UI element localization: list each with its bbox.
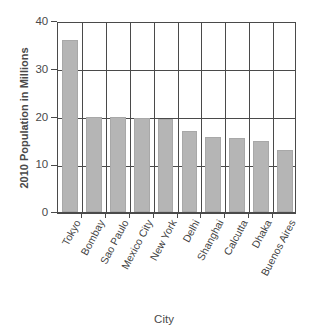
- y-axis-ticks: 010203040: [0, 0, 48, 336]
- bar-calcutta: [229, 138, 245, 212]
- x-tick-label-delhi: Delhi: [181, 218, 202, 244]
- x-tick-mark: [200, 213, 201, 218]
- bar-mexico-city: [134, 118, 150, 212]
- bar-sao-paulo: [110, 117, 126, 212]
- x-tick-mark: [105, 213, 106, 218]
- bar-chart-figure: 2010 Population in Millions 010203040 To…: [0, 0, 328, 336]
- bar-new-york: [158, 119, 174, 212]
- gridline-vertical: [130, 23, 131, 212]
- x-tick-label-tokyo: Tokyo: [60, 218, 83, 247]
- plot-area: [57, 22, 296, 213]
- gridline-vertical: [82, 23, 83, 212]
- y-tick-label: 0: [22, 207, 48, 219]
- gridline-vertical: [106, 23, 107, 212]
- x-tick-mark: [81, 213, 82, 218]
- bar-buenos-aires: [277, 150, 293, 212]
- gridline-vertical: [249, 23, 250, 212]
- bar-delhi: [182, 131, 198, 212]
- gridline-vertical: [273, 23, 274, 212]
- bar-bombay: [86, 117, 102, 213]
- x-tick-mark: [248, 213, 249, 218]
- y-tick-label: 40: [22, 16, 48, 28]
- x-tick-mark: [224, 213, 225, 218]
- x-tick-mark: [177, 213, 178, 218]
- bar-shanghai: [205, 137, 221, 212]
- x-tick-mark: [272, 213, 273, 218]
- gridline-vertical: [178, 23, 179, 212]
- bar-tokyo: [62, 40, 78, 212]
- x-tick-label-calcutta: Calcutta: [222, 218, 250, 257]
- x-tick-mark: [153, 213, 154, 218]
- y-tick-label: 20: [22, 112, 48, 124]
- gridline-vertical: [225, 23, 226, 212]
- y-tick-label: 10: [22, 159, 48, 171]
- gridline-horizontal: [58, 70, 295, 71]
- y-tick-label: 30: [22, 64, 48, 76]
- bar-dhaka: [253, 141, 269, 212]
- gridline-vertical: [154, 23, 155, 212]
- x-tick-label-dhaka: Dhaka: [250, 218, 274, 250]
- x-tick-mark: [129, 213, 130, 218]
- x-axis-title: City: [0, 313, 328, 325]
- gridline-vertical: [201, 23, 202, 212]
